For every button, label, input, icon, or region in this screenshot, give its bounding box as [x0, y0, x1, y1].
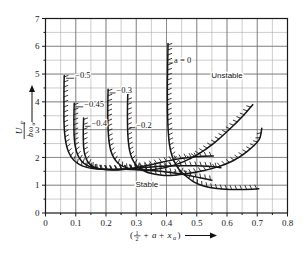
- y-axis-tick-label: 3: [35, 125, 40, 135]
- y-axis-numerator-subscript: F: [20, 121, 26, 126]
- x-axis-paren-close: ): [178, 230, 181, 240]
- chart-canvas: 00.10.20.30.40.50.60.70.8 01234567 a = 0…: [0, 0, 304, 255]
- curve-label: a = 0: [174, 55, 191, 65]
- unstable-region-label: Unstable: [211, 71, 243, 80]
- x-axis-tick-label: 0.1: [70, 218, 81, 228]
- x-axis-plus-1: +: [144, 230, 149, 240]
- curve-label: −0.4: [91, 118, 107, 128]
- x-axis-paren-open: (: [130, 230, 133, 240]
- x-axis-tick-labels: 00.10.20.30.40.50.60.70.8: [43, 218, 293, 228]
- x-axis-tick-label: 0.5: [191, 218, 203, 228]
- x-axis-tick-label: 0.3: [131, 218, 143, 228]
- flutter-stability-chart: 00.10.20.30.40.50.60.70.8 01234567 a = 0…: [0, 0, 304, 255]
- stable-region-label: Stable: [135, 180, 158, 189]
- y-axis-tick-label: 6: [35, 41, 40, 51]
- y-axis-tick-label: 5: [35, 69, 40, 79]
- x-axis-a: a: [152, 230, 157, 240]
- x-axis-half-denominator: 2: [136, 236, 139, 242]
- hatch-mark: [193, 177, 194, 181]
- curve-label: −0.45: [84, 99, 104, 109]
- curve-label: −0.2: [136, 120, 151, 130]
- x-axis-half-numerator: 1: [136, 230, 139, 236]
- x-axis-tick-label: 0: [43, 218, 48, 228]
- y-axis-tick-label: 4: [35, 97, 40, 107]
- y-axis-tick-label: 2: [35, 153, 40, 163]
- y-axis-denominator-omega: ω: [26, 127, 35, 132]
- x-axis-tick-label: 0.7: [252, 218, 264, 228]
- curve-label: −0.5: [75, 70, 90, 80]
- x-axis-tick-label: 0.8: [282, 218, 294, 228]
- x-axis-x: x: [167, 230, 172, 240]
- curve-label: −0.3: [117, 85, 132, 95]
- x-axis-tick-label: 0.2: [100, 218, 111, 228]
- y-axis-tick-label: 0: [35, 208, 40, 218]
- x-axis-tick-label: 0.4: [161, 218, 173, 228]
- hatch-mark: [86, 163, 87, 167]
- y-axis-numerator: U: [14, 127, 24, 134]
- y-axis-tick-label: 7: [35, 14, 40, 24]
- y-axis-tick-label: 1: [35, 180, 40, 190]
- y-axis-denominator-b: b: [26, 133, 35, 137]
- x-axis-tick-label: 0.6: [221, 218, 233, 228]
- x-axis-plus-2: +: [159, 230, 164, 240]
